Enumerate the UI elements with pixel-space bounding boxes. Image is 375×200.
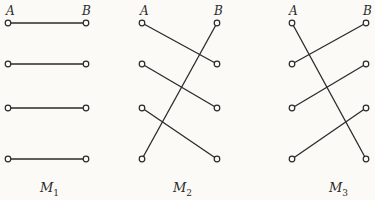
m2-label-a: A	[140, 5, 149, 17]
m3-label-a: A	[289, 5, 298, 17]
m1-label-a: A	[6, 5, 15, 17]
m1-caption: M1	[40, 181, 59, 198]
m3-caption: M3	[329, 181, 348, 198]
node-circle-icon	[5, 61, 11, 67]
node-circle-icon	[289, 105, 295, 111]
node-circle-icon	[139, 105, 145, 111]
node-circle-icon	[139, 156, 145, 162]
m2-caption: M2	[173, 181, 192, 198]
node-circle-icon	[214, 156, 220, 162]
node-circle-icon	[289, 20, 295, 26]
node-circle-icon	[139, 20, 145, 26]
connection-line	[292, 64, 366, 108]
node-circle-icon	[83, 156, 89, 162]
node-circle-icon	[139, 61, 145, 67]
node-circle-icon	[363, 105, 369, 111]
node-circle-icon	[83, 105, 89, 111]
node-circle-icon	[214, 105, 220, 111]
m3-label-b: B	[363, 5, 372, 17]
node-circle-icon	[363, 156, 369, 162]
node-circle-icon	[83, 61, 89, 67]
node-circle-icon	[214, 20, 220, 26]
node-circle-icon	[363, 20, 369, 26]
connection-line	[142, 64, 217, 108]
connection-line	[142, 108, 217, 159]
node-circle-icon	[5, 20, 11, 26]
node-circle-icon	[289, 156, 295, 162]
node-circle-icon	[5, 156, 11, 162]
node-circle-icon	[214, 61, 220, 67]
matching-diagrams: A B A B A B M1 M2 M3	[0, 0, 375, 200]
m2-label-b: B	[214, 5, 223, 17]
m1-label-b: B	[82, 5, 91, 17]
node-circle-icon	[83, 20, 89, 26]
connection-line	[292, 108, 366, 159]
node-circle-icon	[363, 61, 369, 67]
node-circle-icon	[289, 61, 295, 67]
diagram-canvas	[0, 0, 375, 200]
node-circle-icon	[5, 105, 11, 111]
